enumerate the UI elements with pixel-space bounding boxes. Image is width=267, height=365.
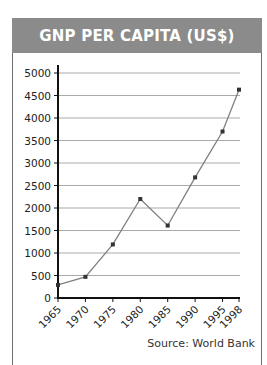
- data-point: [138, 197, 142, 201]
- x-tick-label: 1970: [63, 303, 90, 330]
- data-point: [193, 175, 197, 179]
- x-tick-label: 1980: [118, 303, 145, 330]
- data-point: [83, 275, 87, 279]
- x-tick-label: 1965: [36, 303, 63, 330]
- x-tick-label: 1975: [91, 303, 118, 330]
- y-tick-label: 2500: [24, 180, 51, 192]
- data-point: [111, 242, 115, 246]
- y-tick-label: 1000: [24, 247, 51, 259]
- line-chart: 0500100015002000250030003500400045005000…: [0, 0, 267, 365]
- y-tick-label: 0: [44, 292, 51, 304]
- data-point: [237, 88, 241, 92]
- data-line: [58, 90, 239, 285]
- y-tick-label: 2000: [24, 202, 51, 214]
- y-tick-label: 3500: [24, 135, 51, 147]
- data-point: [56, 283, 60, 287]
- y-tick-label: 3000: [24, 157, 51, 169]
- y-tick-label: 4000: [24, 112, 51, 124]
- y-tick-label: 1500: [24, 225, 51, 237]
- data-point: [166, 224, 170, 228]
- y-tick-label: 500: [31, 270, 51, 282]
- x-tick-label: 1985: [146, 303, 173, 330]
- x-tick-label: 1990: [173, 303, 200, 330]
- y-tick-label: 4500: [24, 90, 51, 102]
- data-point: [221, 130, 225, 134]
- y-tick-label: 5000: [24, 67, 51, 79]
- source-note: Source: World Bank: [147, 337, 255, 350]
